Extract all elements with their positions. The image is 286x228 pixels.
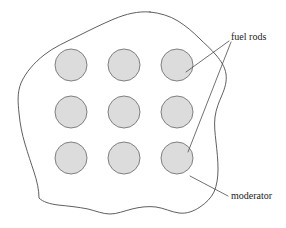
fuel-rod-2	[108, 49, 140, 81]
fuel-rod-3	[161, 49, 193, 81]
diagram-canvas: fuel rods moderator	[0, 0, 286, 228]
fuel-rod-8	[108, 142, 140, 174]
fuel-rod-4	[55, 96, 87, 128]
fuel-rod-5	[108, 96, 140, 128]
moderator-label: moderator	[231, 190, 273, 201]
fuel-rods-label: fuel rods	[231, 31, 266, 42]
fuel-rod-1	[55, 49, 87, 81]
fuel-rod-9	[161, 142, 193, 174]
fuel-rods-group	[55, 49, 193, 174]
fuel-rod-7	[55, 142, 87, 174]
reactor-core-diagram: fuel rods moderator	[0, 0, 286, 228]
fuel-rod-6	[161, 96, 193, 128]
